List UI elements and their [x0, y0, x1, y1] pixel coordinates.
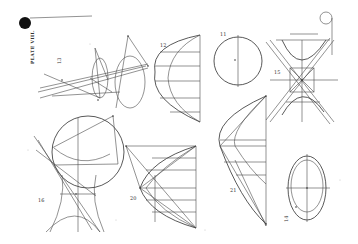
svg-text:16: 16	[38, 197, 44, 203]
figure-curve-ordinates: 21	[219, 95, 267, 226]
svg-text:12: 12	[160, 42, 166, 48]
svg-text:21: 21	[230, 187, 236, 193]
figure-cone: 13	[38, 35, 149, 108]
binding-mark	[19, 16, 92, 29]
figure-circle-hyperbola: 16	[34, 115, 124, 232]
svg-text:20: 20	[130, 195, 136, 201]
svg-text:13: 13	[56, 58, 62, 64]
svg-text:14: 14	[283, 216, 289, 222]
plate-title: PLATE VIII.	[30, 30, 35, 64]
svg-text:15: 15	[274, 69, 280, 75]
figure-ordinate-ellipse: 12	[155, 35, 200, 122]
figure-parabola-chords: 20	[125, 145, 196, 228]
figure-hyperbola: 15	[266, 12, 338, 124]
plate-drawing: PLATE VIII. 13 12 11	[0, 0, 358, 244]
svg-text:11: 11	[220, 31, 226, 37]
figure-circle: 11	[214, 31, 262, 87]
figure-ellipse: 14	[283, 154, 330, 222]
